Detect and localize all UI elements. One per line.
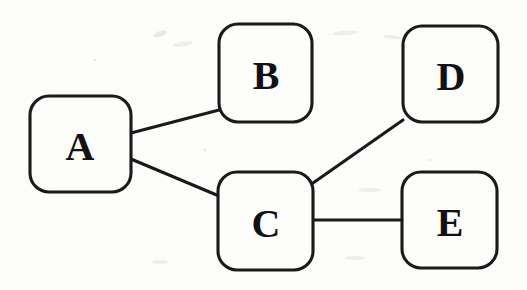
node-c-label: C <box>252 201 281 246</box>
node-c[interactable]: C <box>218 172 313 270</box>
node-b-label: B <box>253 53 280 98</box>
edge-c-d[interactable] <box>313 120 403 183</box>
edge-a-c[interactable] <box>131 159 219 196</box>
graph-svg: A B C D E <box>0 0 527 290</box>
node-a[interactable]: A <box>30 96 131 192</box>
edge-a-b[interactable] <box>131 110 219 133</box>
node-b[interactable]: B <box>219 24 312 122</box>
node-e-label: E <box>437 200 464 245</box>
graph-diagram-canvas: A B C D E <box>0 0 527 290</box>
node-d-label: D <box>437 54 466 99</box>
node-e[interactable]: E <box>402 172 497 268</box>
node-a-label: A <box>66 124 95 169</box>
node-d[interactable]: D <box>403 26 498 122</box>
